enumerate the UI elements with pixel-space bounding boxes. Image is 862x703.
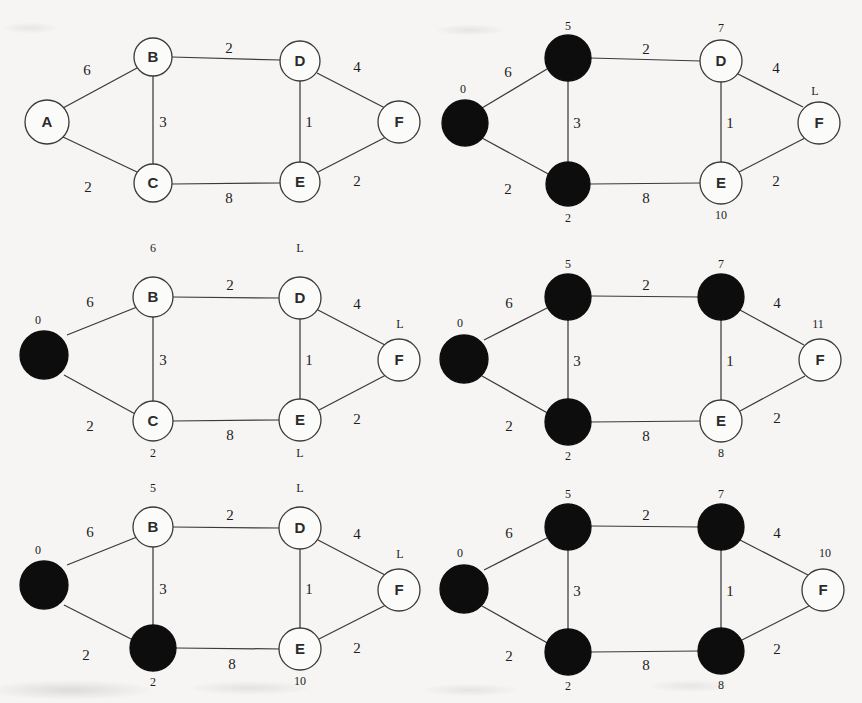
edge-A-B (63, 68, 137, 108)
node-E-label: E (716, 412, 726, 429)
graph-panel-3: 6 2 3 2 8 1 4 2 0 B 6 C 2 D (0, 235, 430, 470)
edge-C-E (172, 420, 281, 421)
edge-B-D (590, 58, 701, 61)
node-C-dist: 2 (150, 675, 156, 689)
node-A[interactable] (440, 335, 488, 383)
weight-A-C: 2 (505, 418, 513, 434)
weight-B-C: 3 (573, 583, 581, 599)
graph-svg-6: 6 2 3 2 8 1 4 2 0 5 2 7 (430, 470, 862, 703)
node-A[interactable] (442, 100, 488, 146)
node-F-dist: L (396, 547, 403, 561)
node-B-dist: 5 (150, 481, 156, 495)
node-D[interactable] (698, 274, 744, 320)
graph-panel-1: 6 2 3 2 8 1 4 2 A B C D (0, 0, 430, 235)
graph-svg-5: 6 2 3 2 8 1 4 2 0 B 5 2 D (0, 470, 430, 703)
edge-A-B (484, 306, 551, 340)
edge-A-B (67, 307, 137, 335)
node-A[interactable] (440, 565, 488, 613)
node-C[interactable] (546, 162, 590, 206)
node-C[interactable] (130, 625, 176, 671)
node-F-label: F (814, 114, 823, 131)
weight-D-F: 4 (353, 296, 361, 312)
edges-group-3 (64, 297, 386, 421)
node-A[interactable] (20, 561, 68, 609)
weight-D-E: 1 (305, 581, 313, 597)
weight-A-B: 6 (83, 62, 91, 78)
edge-A-C (63, 137, 137, 172)
node-F-label: F (394, 113, 403, 130)
node-E-dist: L (296, 446, 303, 460)
node-B-dist: 5 (565, 487, 571, 501)
node-C-label: C (148, 174, 159, 191)
weight-A-C: 2 (84, 179, 92, 195)
node-C[interactable] (545, 629, 591, 675)
edges-group-2 (482, 58, 805, 184)
node-B-label: B (148, 288, 159, 305)
weight-A-B: 6 (86, 294, 94, 310)
weight-A-C: 2 (505, 648, 513, 664)
node-A-dist: 0 (457, 546, 463, 560)
edge-E-F (318, 137, 386, 172)
weight-B-C: 3 (159, 114, 167, 130)
node-E-dist: 10 (294, 674, 306, 688)
node-A-label: A (42, 113, 53, 130)
edge-C-E (591, 421, 701, 422)
node-D[interactable] (698, 504, 744, 550)
edge-E-F (740, 376, 805, 411)
edges-group-5 (64, 527, 386, 649)
weight-D-F: 4 (773, 295, 781, 311)
node-E[interactable] (698, 628, 744, 674)
panel-grid: 6 2 3 2 8 1 4 2 A B C D (0, 0, 862, 703)
node-B[interactable] (545, 504, 591, 550)
edges-group-1 (63, 57, 386, 184)
node-B-dist: 5 (565, 257, 571, 271)
node-F-dist: 10 (819, 546, 831, 560)
weight-A-B: 6 (86, 524, 94, 540)
node-C-dist: 2 (565, 679, 571, 693)
weight-C-E: 8 (642, 428, 650, 444)
edge-C-E (172, 183, 281, 184)
graph-panel-6: 6 2 3 2 8 1 4 2 0 5 2 7 (430, 470, 862, 703)
edge-D-F (738, 74, 803, 107)
node-B[interactable] (545, 35, 591, 81)
node-E-label: E (295, 640, 305, 657)
node-B-label: B (148, 518, 159, 535)
edge-B-D (591, 296, 701, 297)
edge-D-F (318, 310, 385, 345)
node-A[interactable] (20, 331, 68, 379)
weight-B-D: 2 (226, 507, 234, 523)
edge-E-F (319, 605, 386, 639)
edge-A-B (484, 536, 551, 570)
nodes-group-5: 0 B 5 2 D L E 10 F L (20, 481, 420, 689)
node-F-label: F (394, 351, 403, 368)
node-B-dist: 6 (150, 241, 156, 255)
weight-B-D: 2 (642, 41, 650, 57)
node-E-dist: 8 (718, 446, 724, 460)
weight-B-D: 2 (226, 277, 234, 293)
edge-E-F (739, 138, 805, 172)
node-D-label: D (716, 52, 727, 69)
node-C[interactable] (545, 399, 591, 445)
weight-A-C: 2 (504, 181, 512, 197)
weight-D-E: 1 (726, 353, 734, 369)
nodes-group-3: 0 B 6 C 2 D L E L F L (20, 241, 420, 460)
node-B[interactable] (545, 274, 591, 320)
node-A-dist: 0 (35, 543, 41, 557)
graph-svg-1: 6 2 3 2 8 1 4 2 A B C D (0, 0, 430, 235)
weight-D-E: 1 (726, 583, 734, 599)
edge-B-D (591, 526, 701, 527)
edge-A-C (64, 605, 137, 642)
edge-A-C (482, 376, 551, 415)
weight-E-F: 2 (773, 410, 781, 426)
weight-E-F: 2 (353, 411, 361, 427)
node-C-dist: 2 (565, 211, 571, 225)
weight-A-C: 2 (82, 647, 90, 663)
node-F-dist: 11 (812, 317, 824, 331)
weight-D-F: 4 (353, 59, 361, 75)
node-F-label: F (818, 581, 827, 598)
weight-D-E: 1 (305, 114, 313, 130)
edge-A-C (482, 138, 552, 176)
edge-D-F (740, 540, 808, 575)
node-A-dist: 0 (460, 82, 466, 96)
edge-C-E (590, 183, 701, 184)
